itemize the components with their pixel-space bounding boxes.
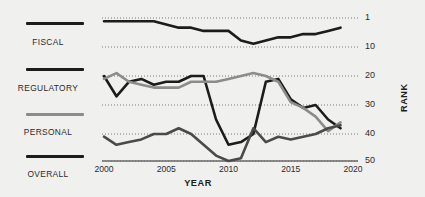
y-tick-40: 40 (365, 128, 375, 138)
y-tick-10: 10 (365, 41, 375, 51)
legend-label-personal: PERSONAL (0, 127, 96, 137)
legend-label-regulatory: REGULATORY (0, 83, 96, 93)
x-tick-2005: 2005 (143, 164, 189, 174)
legend-swatch-personal (26, 113, 84, 116)
legend-swatch-overall (26, 155, 84, 158)
x-tick-2000: 2000 (81, 164, 127, 174)
chart-series-group (104, 21, 341, 161)
x-tick-2020: 2020 (330, 164, 376, 174)
chart-plot-area: 11020304050 20002005201020152020 YEAR RA… (96, 0, 425, 197)
x-tick-2015: 2015 (268, 164, 314, 174)
y-axis-title: RANK (399, 83, 409, 112)
legend-swatch-fiscal (26, 22, 84, 25)
y-tick-20: 20 (365, 70, 375, 80)
y-tick-1: 1 (365, 12, 370, 22)
x-tick-2010: 2010 (206, 164, 252, 174)
series-line-personal (104, 73, 341, 131)
chart-figure: FISCAL REGULATORY PERSONAL OVERALL 11020… (0, 0, 425, 197)
x-axis-title: YEAR (98, 178, 298, 188)
legend-swatch-regulatory (26, 68, 84, 71)
series-line-fiscal (104, 21, 341, 44)
legend-label-fiscal: FISCAL (0, 37, 96, 47)
y-tick-30: 30 (365, 99, 375, 109)
